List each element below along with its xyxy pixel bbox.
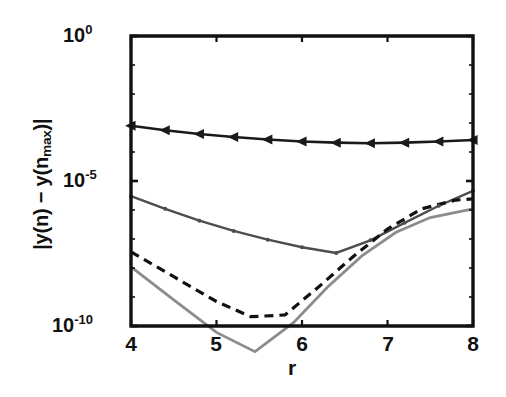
axes-frame: [131, 36, 473, 326]
figure-container: |y(n) − y(nmax)| r 100 10-5 10-10 4 5 6 …: [0, 0, 506, 397]
plot-area: [0, 0, 506, 397]
data-point-marker-triangle: [330, 138, 340, 148]
data-point-marker: [403, 221, 407, 225]
data-point-marker-triangle: [194, 129, 204, 139]
series-layer: [131, 126, 473, 352]
data-point-marker-triangle: [296, 137, 306, 147]
data-point-marker: [232, 229, 236, 233]
series-line-solid-gray-curve: [131, 209, 473, 352]
data-point-marker-triangle: [262, 134, 272, 144]
data-point-marker-triangle: [228, 132, 238, 142]
axes-frame-rect: [131, 36, 473, 326]
data-point-marker-triangle: [433, 137, 443, 147]
data-point-marker: [266, 238, 270, 242]
data-point-marker: [197, 219, 201, 223]
data-point-marker: [163, 207, 167, 211]
data-point-marker-triangle: [399, 138, 409, 148]
series-line-dashed-curve: [131, 199, 473, 317]
data-point-marker: [334, 251, 338, 255]
data-point-marker-triangle: [365, 138, 375, 148]
data-point-marker: [300, 245, 304, 249]
data-point-marker: [368, 238, 372, 242]
data-point-marker-triangle: [159, 125, 169, 135]
axis-ticks: [131, 36, 473, 326]
data-point-marker: [437, 204, 441, 208]
